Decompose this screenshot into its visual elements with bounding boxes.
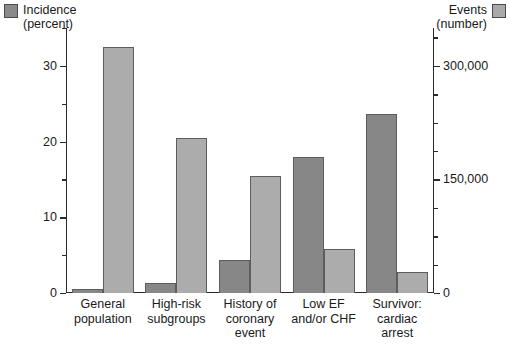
bar-incidence-0	[72, 289, 103, 293]
legend-events-label: Events (number)	[436, 3, 487, 31]
bar-events-1	[176, 138, 207, 293]
x-label-1: High-risk subgroups	[140, 297, 214, 341]
right-axis-tick	[434, 37, 438, 38]
bar-events-3	[324, 249, 355, 293]
legend-incidence: Incidence (percent)	[4, 3, 77, 31]
legend-incidence-label: Incidence (percent)	[23, 3, 77, 31]
x-axis-labels: General population High-risk subgroups H…	[66, 297, 434, 341]
bar-group-general-population	[66, 28, 140, 293]
bar-group-low-ef-chf	[287, 28, 361, 293]
left-axis-tick-label: 20	[43, 136, 57, 148]
right-axis-tick-label: 0	[443, 287, 450, 299]
right-axis-tick-label: 300,000	[443, 60, 488, 72]
right-axis-tick	[434, 236, 438, 237]
bar-groups	[66, 28, 434, 293]
left-axis-tick	[60, 66, 66, 67]
right-axis-tick	[434, 66, 440, 67]
bar-events-0	[103, 47, 134, 293]
bar-group-survivor-cardiac-arrest	[360, 28, 434, 293]
left-axis-tick	[62, 255, 66, 256]
left-axis-tick-label: 10	[43, 211, 57, 223]
left-axis-tick	[62, 104, 66, 105]
x-label-2: History of coronary event	[213, 297, 287, 341]
bar-incidence-2	[219, 260, 250, 293]
right-axis-tick	[434, 293, 440, 294]
x-label-4: Survivor: cardiac arrest	[360, 297, 434, 341]
bar-group-high-risk-subgroups	[140, 28, 214, 293]
right-axis-tick	[434, 208, 438, 209]
chart-figure: Incidence (percent) Events (number)	[0, 0, 510, 348]
x-label-0: General population	[66, 297, 140, 341]
right-axis-tick-label: 150,000	[443, 173, 488, 185]
right-axis-tick	[434, 265, 438, 266]
bar-group-history-coronary-event	[213, 28, 287, 293]
right-axis-tick	[434, 94, 438, 95]
left-axis-tick	[60, 142, 66, 143]
bar-incidence-1	[145, 283, 176, 293]
plot-area: 0102030 0150,000300,000	[66, 28, 434, 293]
bar-events-4	[397, 272, 428, 293]
left-axis-tick	[62, 179, 66, 180]
legend-swatch-incidence-icon	[4, 4, 18, 18]
x-label-3: Low EF and/or CHF	[287, 297, 361, 341]
right-axis-tick	[434, 151, 438, 152]
left-axis-tick-label: 30	[43, 60, 57, 72]
right-axis-tick	[434, 123, 438, 124]
legend-events: Events (number)	[436, 3, 506, 31]
bar-incidence-4	[366, 114, 397, 293]
left-axis-tick	[62, 28, 66, 29]
left-axis-tick	[60, 293, 66, 294]
legend-swatch-events-icon	[492, 4, 506, 18]
left-axis-tick	[60, 217, 66, 218]
left-axis-tick-label: 0	[50, 287, 57, 299]
bar-events-2	[250, 176, 281, 293]
bar-incidence-3	[293, 157, 324, 293]
right-axis-tick	[434, 179, 440, 180]
